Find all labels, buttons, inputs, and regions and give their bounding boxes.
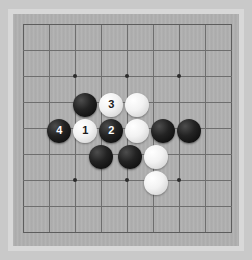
stone-numbered[interactable]: 3 xyxy=(99,93,123,117)
stone[interactable] xyxy=(177,119,201,143)
stone[interactable] xyxy=(125,93,149,117)
stone[interactable] xyxy=(144,171,168,195)
stone-numbered[interactable]: 1 xyxy=(73,119,97,143)
stone-move-number: 1 xyxy=(82,125,88,136)
stone[interactable] xyxy=(89,145,113,169)
stone[interactable] xyxy=(144,145,168,169)
stone[interactable] xyxy=(73,93,97,117)
go-board-app: 3412 xyxy=(0,0,252,260)
stone-move-number: 3 xyxy=(108,99,114,110)
stone[interactable] xyxy=(151,119,175,143)
stone-numbered[interactable]: 4 xyxy=(47,119,71,143)
stones-layer: 3412 xyxy=(13,14,239,246)
stone-numbered[interactable]: 2 xyxy=(99,119,123,143)
stone-move-number: 2 xyxy=(108,125,114,136)
board-surface[interactable]: 3412 xyxy=(13,14,239,246)
stone[interactable] xyxy=(118,145,142,169)
stone[interactable] xyxy=(125,119,149,143)
stone-move-number: 4 xyxy=(56,125,62,136)
